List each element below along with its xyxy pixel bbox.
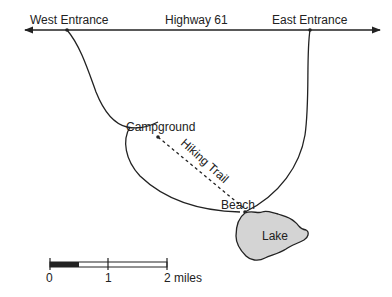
park-map: West Entrance Highway 61 East Entrance C… <box>0 0 392 297</box>
east-road <box>245 30 310 212</box>
campground-marker <box>156 135 160 139</box>
scale-bar: 0 1 2 miles <box>46 258 202 285</box>
east-entrance-marker <box>308 28 312 32</box>
campground-label: Campground <box>126 120 195 134</box>
scale-tick-1: 1 <box>105 271 112 285</box>
beach-label: Beach <box>221 198 255 212</box>
scale-tick-0: 0 <box>46 271 53 285</box>
west-entrance-label: West Entrance <box>30 13 109 27</box>
east-entrance-label: East Entrance <box>272 13 348 27</box>
highway-label: Highway 61 <box>165 13 228 27</box>
west-entrance-marker <box>65 28 69 32</box>
west-road <box>67 30 158 128</box>
scale-tick-2: 2 miles <box>164 271 202 285</box>
lake-label: Lake <box>262 229 288 243</box>
